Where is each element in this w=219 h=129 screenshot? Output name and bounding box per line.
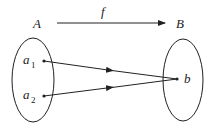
element-a2-base: a <box>23 87 30 102</box>
mapping-a2-to-b <box>44 79 177 96</box>
function-mapping-diagram: f A B a 1 a 2 b <box>0 0 219 129</box>
element-a2-label: a 2 <box>23 87 36 105</box>
element-a1-subscript: 1 <box>31 60 36 70</box>
element-a2-dot <box>42 94 45 97</box>
domain-set-ellipse <box>12 38 54 122</box>
element-a1-dot <box>42 59 45 62</box>
element-b-label: b <box>184 71 191 86</box>
mapping-a1-to-b <box>44 61 177 79</box>
element-a2-subscript: 2 <box>31 95 36 105</box>
codomain-set-label: B <box>176 16 184 31</box>
function-label: f <box>101 4 107 19</box>
element-b-dot <box>175 77 178 80</box>
element-a1-base: a <box>23 52 30 67</box>
element-a1-label: a 1 <box>23 52 36 70</box>
domain-set-label: A <box>32 16 41 31</box>
